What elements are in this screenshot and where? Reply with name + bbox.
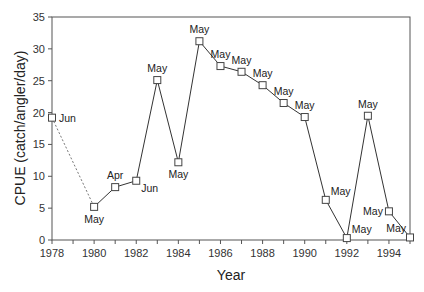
y-axis: 05101520253035: [33, 11, 52, 246]
point-label: May: [274, 85, 295, 97]
plot-frame: [52, 17, 410, 240]
line-segment: [347, 116, 368, 238]
data-lines: [52, 41, 410, 238]
point-labels: JunMayAprJunMayMayMayMayMayMayMayMayMayM…: [59, 23, 407, 235]
point-label: May: [189, 23, 210, 35]
point-label: Jun: [141, 182, 158, 194]
line-segment: [157, 80, 178, 162]
square-marker-icon: [154, 77, 161, 84]
square-marker-icon: [259, 82, 266, 89]
point-label: May: [331, 185, 352, 197]
point-label: May: [211, 48, 232, 60]
point-label: May: [232, 54, 253, 66]
square-marker-icon: [322, 196, 329, 203]
y-tick-label: 25: [33, 75, 45, 87]
square-marker-icon: [217, 63, 224, 70]
square-marker-icon: [280, 100, 287, 107]
y-tick-label: 20: [33, 107, 45, 119]
cpue-line-chart: 05101520253035 1978198019821984198619881…: [0, 0, 424, 292]
point-label: May: [352, 223, 373, 235]
x-tick-label: 1988: [250, 247, 274, 259]
x-tick-label: 1982: [124, 247, 148, 259]
line-segment: [178, 41, 199, 162]
line-segment: [136, 80, 157, 181]
line-segment: [368, 116, 389, 212]
square-marker-icon: [301, 114, 308, 121]
x-tick-label: 1994: [377, 247, 401, 259]
point-label: Jun: [59, 112, 76, 124]
square-marker-icon: [49, 114, 56, 121]
x-tick-label: 1986: [208, 247, 232, 259]
line-segment: [326, 200, 347, 238]
point-label: May: [168, 168, 189, 180]
point-label: Apr: [107, 169, 124, 181]
square-marker-icon: [112, 184, 119, 191]
square-marker-icon: [175, 159, 182, 166]
x-axis-title: Year: [217, 267, 246, 283]
plot-border: [52, 17, 410, 240]
point-label: May: [363, 205, 384, 217]
x-tick-label: 1990: [292, 247, 316, 259]
x-tick-label: 1984: [166, 247, 190, 259]
square-marker-icon: [407, 234, 414, 241]
y-tick-label: 15: [33, 138, 45, 150]
y-tick-label: 30: [33, 43, 45, 55]
line-segment: [52, 118, 94, 207]
x-tick-label: 1980: [82, 247, 106, 259]
y-tick-label: 0: [39, 234, 45, 246]
square-marker-icon: [91, 203, 98, 210]
point-label: May: [147, 62, 168, 74]
y-tick-label: 10: [33, 170, 45, 182]
square-marker-icon: [364, 112, 371, 119]
point-label: May: [295, 99, 316, 111]
square-marker-icon: [133, 177, 140, 184]
y-axis-title: CPUE (catch/angler/day): [12, 51, 28, 206]
data-markers: [49, 38, 414, 242]
point-label: May: [386, 222, 407, 234]
y-tick-label: 5: [39, 202, 45, 214]
square-marker-icon: [385, 208, 392, 215]
square-marker-icon: [343, 235, 350, 242]
x-tick-label: 1992: [335, 247, 359, 259]
line-segment: [305, 117, 326, 200]
y-tick-label: 35: [33, 11, 45, 23]
point-label: May: [358, 98, 379, 110]
square-marker-icon: [196, 38, 203, 45]
x-axis: 197819801982198419861988199019921994: [40, 240, 410, 259]
square-marker-icon: [238, 68, 245, 75]
x-tick-label: 1978: [40, 247, 64, 259]
point-label: May: [84, 213, 105, 225]
point-label: May: [253, 67, 274, 79]
